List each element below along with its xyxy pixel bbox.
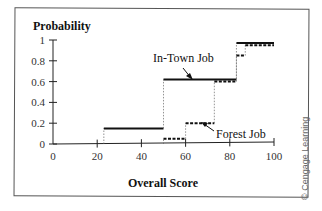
x-axis-label: Overall Score (128, 176, 199, 190)
x-tick-label: 80 (224, 150, 236, 162)
forest-annotation: Forest Job (216, 127, 266, 141)
y-tick-label: 0.6 (31, 76, 45, 88)
y-tick-label: 0.2 (31, 117, 45, 129)
x-tick-label: 60 (180, 150, 192, 162)
step-chart: Probability Overall Score 00.20.40.60.81… (0, 0, 322, 211)
x-tick-label: 100 (266, 150, 283, 162)
intown-annotation: In-Town Job (153, 51, 214, 65)
x-tick-label: 0 (50, 150, 56, 162)
x-tick-label: 20 (92, 150, 104, 162)
y-tick-label: 0.8 (31, 55, 45, 67)
y-tick-label: 0.4 (31, 96, 45, 108)
y-tick-label: 0 (40, 138, 46, 150)
y-tick-label: 1 (40, 34, 46, 46)
y-axis-label: Probability (33, 19, 91, 33)
x-tick-label: 40 (136, 150, 148, 162)
copyright-credit: © Cengage Learning (300, 117, 310, 200)
